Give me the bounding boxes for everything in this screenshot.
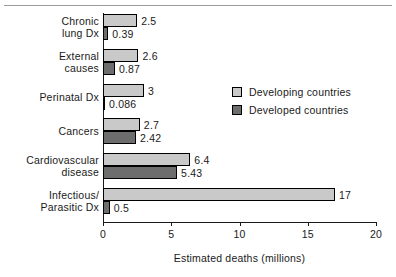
category-label-0: Chronic lung Dx xyxy=(61,15,99,39)
category-label-2: Perinatal Dx xyxy=(39,91,99,103)
x-tick-15 xyxy=(308,222,309,226)
x-axis-title: Estimated deaths (millions) xyxy=(103,252,376,264)
bar-developing-1 xyxy=(103,49,138,62)
x-tick-20 xyxy=(376,222,377,226)
x-tick-label-20: 20 xyxy=(370,228,382,240)
x-tick-0 xyxy=(103,222,104,226)
bar-developed-4 xyxy=(103,166,177,179)
bar-developing-4 xyxy=(103,153,190,166)
bar-value-developed-2: 0.086 xyxy=(109,98,136,110)
legend-label-developing: Developing countries xyxy=(249,86,351,98)
bar-developed-5 xyxy=(103,201,110,214)
bar-developing-5 xyxy=(103,188,335,201)
bar-value-developed-3: 2.42 xyxy=(140,132,161,144)
bar-developing-0 xyxy=(103,14,137,27)
bar-value-developing-1: 2.6 xyxy=(142,50,157,62)
legend-swatch-developed-icon xyxy=(232,105,242,115)
bar-value-developing-3: 2.7 xyxy=(144,119,159,131)
x-tick-5 xyxy=(171,222,172,226)
category-label-4: Cardiovascular disease xyxy=(26,154,99,178)
chart-figure: 05101520 2.50.392.60.8730.0862.72.426.45… xyxy=(0,0,396,277)
bar-developed-0 xyxy=(103,27,108,40)
bar-developed-1 xyxy=(103,62,115,75)
category-label-1: External causes xyxy=(59,50,99,74)
bar-value-developed-4: 5.43 xyxy=(181,167,202,179)
legend-label-developed: Developed countries xyxy=(249,104,349,116)
bar-value-developing-4: 6.4 xyxy=(194,154,209,166)
bar-value-developing-5: 17 xyxy=(339,189,351,201)
x-tick-label-0: 0 xyxy=(100,228,106,240)
legend-item-developed: Developed countries xyxy=(232,102,351,117)
x-tick-label-5: 5 xyxy=(168,228,174,240)
bar-developing-2 xyxy=(103,84,144,97)
category-label-3: Cancers xyxy=(59,125,100,137)
legend-item-developing: Developing countries xyxy=(232,84,351,99)
x-tick-10 xyxy=(240,222,241,226)
bar-developed-2 xyxy=(103,97,105,110)
x-tick-label-15: 15 xyxy=(302,228,314,240)
category-label-5: Infectious/ Parasitic Dx xyxy=(41,189,99,213)
bar-value-developed-1: 0.87 xyxy=(119,63,140,75)
chart-legend: Developing countries Developed countries xyxy=(232,84,351,120)
bar-developing-3 xyxy=(103,118,140,131)
bar-value-developed-5: 0.5 xyxy=(114,202,129,214)
bar-value-developing-0: 2.5 xyxy=(141,15,156,27)
bar-value-developing-2: 3 xyxy=(148,85,154,97)
bar-developed-3 xyxy=(103,131,136,144)
legend-swatch-developing-icon xyxy=(232,87,242,97)
x-tick-label-10: 10 xyxy=(233,228,245,240)
bar-value-developed-0: 0.39 xyxy=(112,28,133,40)
plot-area: 05101520 2.50.392.60.8730.0862.72.426.45… xyxy=(0,0,396,277)
